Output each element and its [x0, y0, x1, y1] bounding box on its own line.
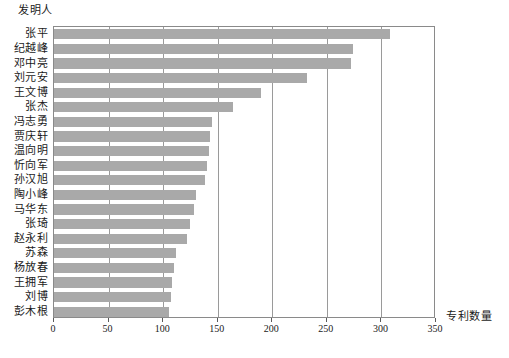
bar	[54, 292, 171, 302]
tick-mark	[53, 318, 54, 322]
category-label: 温向明	[14, 144, 48, 156]
tick-mark	[380, 318, 381, 322]
bar	[54, 263, 174, 273]
bar	[54, 58, 351, 68]
bar	[54, 277, 172, 287]
bar	[54, 117, 212, 127]
x-axis-ticks: 050100150200250300350	[0, 318, 509, 340]
y-axis-title: 发明人	[18, 4, 53, 17]
bar	[54, 234, 187, 244]
category-label: 刘元安	[14, 71, 48, 83]
category-label: 冯志勇	[14, 115, 48, 127]
tick-label: 200	[264, 323, 279, 335]
category-label: 彭木根	[14, 305, 48, 317]
category-label: 苏森	[25, 246, 48, 258]
category-axis-labels: 张平纪越峰邓中亮刘元安王文博张杰冯志勇贾庆轩温向明忻向军孙汉旭陶小峰马华东张琦赵…	[0, 26, 50, 318]
category-label: 陶小峰	[14, 188, 48, 200]
bar	[54, 146, 209, 156]
bar	[54, 29, 390, 39]
tick-label: 0	[51, 323, 56, 335]
tick-label: 350	[428, 323, 443, 335]
tick-label: 50	[103, 323, 113, 335]
bar	[54, 161, 207, 171]
x-axis-title: 专利数量	[446, 310, 492, 323]
bar	[54, 219, 190, 229]
bar	[54, 131, 210, 141]
tick-mark	[162, 318, 163, 322]
category-label: 张杰	[25, 100, 48, 112]
patent-count-bar-chart: 发明人 张平纪越峰邓中亮刘元安王文博张杰冯志勇贾庆轩温向明忻向军孙汉旭陶小峰马华…	[0, 0, 509, 358]
category-label: 刘博	[25, 290, 48, 302]
category-label: 马华东	[14, 203, 48, 215]
category-label: 邓中亮	[14, 57, 48, 69]
category-label: 王拥军	[14, 276, 48, 288]
category-label: 忻向军	[14, 159, 48, 171]
tick-label: 150	[209, 323, 224, 335]
plot-area	[53, 26, 435, 318]
category-label: 赵永利	[14, 232, 48, 244]
tick-mark	[326, 318, 327, 322]
tick-mark	[271, 318, 272, 322]
tick-mark	[435, 318, 436, 322]
bar	[54, 175, 205, 185]
bar	[54, 44, 353, 54]
category-label: 张平	[25, 27, 48, 39]
category-label: 张琦	[25, 217, 48, 229]
tick-mark	[108, 318, 109, 322]
bar-series	[54, 27, 434, 317]
tick-mark	[217, 318, 218, 322]
tick-label: 250	[318, 323, 333, 335]
category-label: 王文博	[14, 86, 48, 98]
bar	[54, 102, 233, 112]
bar	[54, 204, 194, 214]
bar	[54, 248, 176, 258]
category-label: 孙汉旭	[14, 173, 48, 185]
category-label: 纪越峰	[14, 42, 48, 54]
bar	[54, 190, 196, 200]
bar	[54, 73, 307, 83]
category-label: 杨放春	[14, 261, 48, 273]
bar	[54, 307, 169, 317]
bar	[54, 88, 261, 98]
tick-label: 300	[373, 323, 388, 335]
tick-label: 100	[155, 323, 170, 335]
category-label: 贾庆轩	[14, 130, 48, 142]
